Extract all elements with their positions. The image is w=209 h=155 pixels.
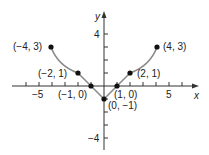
y-axis: 4 −4 y: [88, 11, 108, 150]
label-1-0: (1, 0): [114, 89, 137, 100]
label-4-3: (4, 3): [163, 41, 186, 52]
x-tick-label-neg5: −5: [32, 89, 44, 100]
x-axis-label: x: [193, 90, 200, 101]
point-2-1: [127, 70, 132, 75]
point-0-m1: [101, 96, 106, 101]
label-m2-1: (−2, 1): [38, 68, 67, 79]
label-m1-0: (−1, 0): [58, 89, 87, 100]
point-1-0: [114, 83, 119, 88]
point-m4-3: [48, 44, 53, 49]
point-m2-1: [75, 70, 80, 75]
x-tick-label-5: 5: [166, 89, 172, 100]
point-4-3: [154, 44, 159, 49]
graph-canvas: −5 5 x 4 −4 y: [0, 0, 209, 155]
point-m1-0: [88, 83, 93, 88]
y-tick-label-4: 4: [94, 29, 100, 40]
label-0-m1: (0, −1): [108, 100, 137, 111]
y-tick-label-neg4: −4: [88, 133, 100, 144]
y-axis-label: y: [94, 11, 101, 22]
x-axis-arrow-icon: [192, 84, 199, 89]
label-2-1: (2, 1): [137, 68, 160, 79]
label-m4-3: (−4, 3): [13, 41, 42, 52]
y-axis-arrow-icon: [102, 11, 107, 18]
